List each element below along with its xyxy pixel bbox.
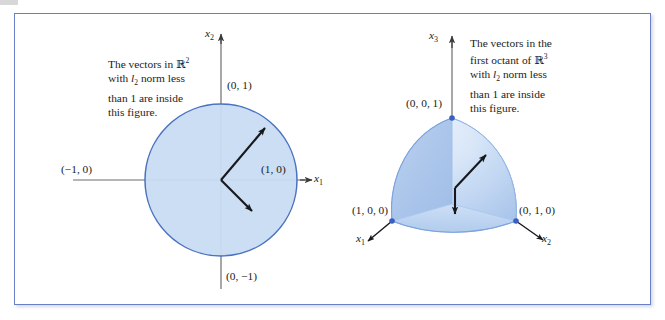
figure-artwork bbox=[0, 0, 665, 320]
point-label-0-1-0: (0, 1, 0) bbox=[519, 205, 555, 216]
caption-2d: The vectors in ℝ2 with l2 norm less than… bbox=[108, 54, 189, 119]
point-label-0-0-1: (0, 0, 1) bbox=[406, 98, 442, 109]
point-label-1-0: (1, 0) bbox=[261, 164, 286, 175]
caption-2d-line-1-text: The vectors in bbox=[108, 58, 176, 70]
caption-3d-line-2-pre: first octant of bbox=[470, 54, 534, 66]
caption-3d: The vectors in the first octant of ℝ3 wi… bbox=[470, 36, 552, 116]
caption-2d-exponent: 2 bbox=[185, 56, 189, 65]
axis-arrow-x1-3d bbox=[368, 221, 392, 241]
first-octant-spherical-sector bbox=[389, 115, 519, 232]
caption-3d-exponent: 3 bbox=[544, 52, 548, 61]
caption-2d-line-2: with l2 norm less bbox=[108, 71, 189, 91]
caption-3d-line-3: with l2 norm less bbox=[470, 67, 552, 87]
caption-3d-line-4: than 1 are inside bbox=[470, 87, 552, 101]
axis-label-x1-sub: 1 bbox=[319, 178, 323, 187]
axis-label-x1-3d: x1 bbox=[356, 233, 365, 247]
axis-label-x3-sub: 3 bbox=[434, 35, 438, 44]
axis-label-x1-3d-sub: 1 bbox=[361, 238, 365, 247]
axis-label-x2: x2 bbox=[205, 28, 214, 42]
caption-3d-line-1: The vectors in the bbox=[470, 36, 552, 50]
point-label-0-neg1: (0, −1) bbox=[226, 271, 257, 282]
caption-2d-line-4: this figure. bbox=[108, 105, 189, 119]
vertex-010 bbox=[513, 218, 519, 224]
caption-2d-line-3: than 1 are inside bbox=[108, 91, 189, 105]
point-label-0-1: (0, 1) bbox=[227, 80, 252, 91]
axis-arrow-x2-3d bbox=[516, 221, 543, 240]
caption-2d-line-2-post: norm less bbox=[138, 72, 185, 84]
axis-label-x3: x3 bbox=[429, 30, 438, 44]
caption-3d-line-5: this figure. bbox=[470, 101, 552, 115]
vertex-001 bbox=[449, 115, 455, 121]
axis-label-x2-sub: 2 bbox=[210, 33, 214, 42]
caption-3d-line-3-post: norm less bbox=[500, 68, 547, 80]
point-label-1-0-0: (1, 0, 0) bbox=[352, 205, 388, 216]
vertex-100 bbox=[389, 218, 395, 224]
caption-2d-line-2-pre: with bbox=[108, 72, 131, 84]
axis-label-x1: x1 bbox=[314, 173, 323, 187]
caption-3d-line-3-pre: with bbox=[470, 68, 493, 80]
caption-3d-line-2: first octant of ℝ3 bbox=[470, 50, 552, 67]
point-label-neg1-0: (−1, 0) bbox=[61, 164, 92, 175]
axis-label-x2-3d-sub: 2 bbox=[547, 238, 551, 247]
blackboard-r-3d: ℝ bbox=[534, 53, 543, 67]
caption-2d-line-1: The vectors in ℝ2 bbox=[108, 54, 189, 71]
figure-root: The vectors in ℝ2 with l2 norm less than… bbox=[0, 0, 665, 320]
axis-label-x2-3d: x2 bbox=[542, 233, 551, 247]
